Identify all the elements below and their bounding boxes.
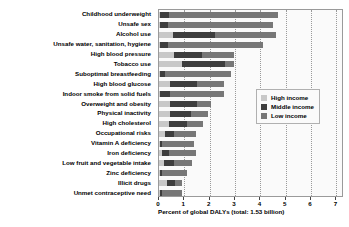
bar-row	[159, 79, 342, 89]
x-tick-label: 0	[156, 200, 159, 207]
bar-segment-low	[168, 22, 273, 28]
stacked-bar	[159, 61, 234, 67]
stacked-bar	[159, 12, 278, 18]
y-axis-label: Unmet contraceptive need	[74, 189, 151, 196]
bar-segment-low	[191, 111, 209, 117]
bar-row	[159, 178, 342, 188]
bar-segment-low	[162, 141, 195, 147]
stacked-bar	[159, 111, 208, 117]
stacked-bar	[159, 91, 224, 97]
stacked-bar	[159, 121, 203, 127]
bar-segment-low	[162, 190, 182, 196]
legend-item-hi[interactable]: High income	[261, 93, 314, 102]
bar-segment-low	[168, 42, 263, 48]
bar-segment-low	[197, 81, 224, 87]
y-axis-labels: Childhood underweightUnsafe sexAlcohol u…	[0, 9, 155, 197]
bar-segment-hi	[159, 81, 170, 87]
bar-row	[159, 168, 342, 178]
x-axis-ticks: 01234567	[158, 197, 343, 207]
x-tick-label: 1	[182, 200, 185, 207]
bar-row	[159, 50, 342, 60]
y-axis-label: Low fruit and vegetable intake	[62, 159, 151, 166]
x-tick-label: 4	[258, 200, 261, 207]
bar-segment-mid	[169, 121, 187, 127]
legend: High incomeMiddle incomeLow income	[256, 89, 320, 124]
stacked-bar	[159, 180, 182, 186]
bar-segment-hi	[159, 61, 182, 67]
y-axis-label: Illicit drugs	[118, 179, 151, 186]
stacked-bar	[159, 160, 192, 166]
legend-item-mid[interactable]: Middle income	[261, 102, 314, 111]
y-axis-label: High blood pressure	[91, 50, 151, 57]
bar-segment-low	[174, 160, 192, 166]
y-axis-label: Suboptimal breastfeeding	[75, 70, 151, 77]
bar-chart: Childhood underweightUnsafe sexAlcohol u…	[0, 0, 349, 227]
bar-segment-low	[162, 170, 187, 176]
bar-row	[159, 20, 342, 30]
bar-segment-low	[197, 101, 211, 107]
bar-segment-mid	[170, 81, 197, 87]
bar-segment-low	[169, 12, 278, 18]
y-axis-label: Alcohol use	[116, 30, 151, 37]
bar-segment-low	[215, 32, 276, 38]
bar-row	[159, 40, 342, 50]
bar-segment-low	[175, 180, 181, 186]
bar-row	[159, 69, 342, 79]
y-axis-label: Overweight and obesity	[81, 100, 151, 107]
x-tick-label: 3	[232, 200, 235, 207]
x-tick-label: 6	[308, 200, 311, 207]
bar-segment-mid	[165, 131, 174, 137]
stacked-bar	[159, 22, 273, 28]
bar-row	[159, 158, 342, 168]
x-tick-label: 7	[334, 200, 337, 207]
bar-row	[159, 129, 342, 139]
bar-row	[159, 10, 342, 20]
bar-segment-mid	[162, 150, 170, 156]
y-axis-label: Vitamin A deficiency	[91, 139, 151, 146]
stacked-bar	[159, 71, 231, 77]
x-tick-label: 5	[283, 200, 286, 207]
y-axis-label: Zinc deficiency	[106, 169, 151, 176]
bar-segment-mid	[160, 22, 168, 28]
bar-row	[159, 59, 342, 69]
bar-segment-low	[187, 121, 203, 127]
x-axis-title: Percent of global DALYs (total: 1.53 bil…	[158, 208, 349, 215]
stacked-bar	[159, 150, 196, 156]
bar-segment-mid	[182, 61, 225, 67]
bar-segment-hi	[159, 111, 170, 117]
legend-label: Middle income	[271, 103, 314, 110]
y-axis-label: Occupational risks	[96, 129, 151, 136]
y-axis-label: Unsafe water, sanitation, hygiene	[53, 40, 151, 47]
bar-segment-mid	[173, 32, 215, 38]
legend-label: High income	[271, 94, 308, 101]
bar-segment-mid	[174, 52, 202, 58]
bar-segment-hi	[159, 101, 170, 107]
bar-segment-mid	[164, 160, 174, 166]
y-axis-label: High blood glucose	[94, 80, 151, 87]
legend-swatch-icon	[261, 113, 267, 119]
stacked-bar	[159, 131, 196, 137]
stacked-bar	[159, 101, 211, 107]
y-axis-label: Tobacco use	[114, 60, 151, 67]
stacked-bar	[159, 190, 182, 196]
legend-swatch-icon	[261, 104, 267, 110]
bar-segment-hi	[159, 52, 174, 58]
bar-segment-mid	[170, 101, 197, 107]
legend-item-low[interactable]: Low income	[261, 111, 314, 120]
y-axis-label: Childhood underweight	[82, 10, 151, 17]
bar-segment-low	[169, 150, 196, 156]
y-axis-label: Unsafe sex	[118, 20, 151, 27]
bar-segment-low	[170, 91, 223, 97]
legend-label: Low income	[271, 112, 307, 119]
y-axis-label: High cholesterol	[103, 119, 151, 126]
bar-segment-low	[202, 52, 234, 58]
stacked-bar	[159, 52, 234, 58]
bar-segment-mid	[170, 111, 190, 117]
bar-segment-hi	[159, 180, 167, 186]
bar-segment-mid	[167, 180, 176, 186]
bar-segment-mid	[160, 42, 168, 48]
bar-segment-mid	[160, 12, 170, 18]
stacked-bar	[159, 81, 224, 87]
bar-segment-hi	[159, 121, 169, 127]
bar-segment-low	[165, 71, 231, 77]
